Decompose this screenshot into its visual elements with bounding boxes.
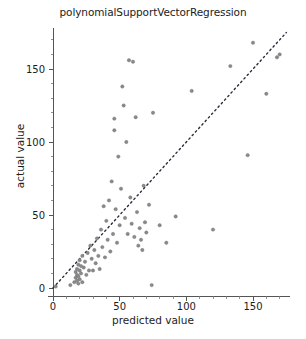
chart-figure: polynomialSupportVectorRegression 050100…: [0, 0, 306, 339]
data-point: [54, 285, 57, 288]
data-point: [99, 228, 102, 231]
data-point: [79, 272, 82, 275]
data-point: [91, 269, 94, 272]
identity-line: [53, 33, 286, 289]
data-point: [82, 266, 85, 269]
x-tick-label: 0: [50, 301, 56, 312]
data-point: [158, 224, 161, 227]
data-point: [126, 232, 129, 235]
data-point: [107, 199, 110, 202]
data-point: [69, 283, 72, 286]
data-point: [143, 221, 146, 224]
data-point: [94, 261, 97, 264]
data-point: [139, 238, 142, 241]
y-tick-label: 100: [26, 137, 45, 148]
data-point: [110, 180, 113, 183]
data-point: [246, 153, 249, 156]
data-point: [121, 85, 124, 88]
data-point: [78, 259, 81, 262]
data-point: [78, 278, 81, 281]
data-point: [130, 222, 133, 225]
y-tick-label: 150: [26, 64, 45, 75]
data-point: [134, 115, 137, 118]
data-point: [106, 238, 109, 241]
data-point: [142, 184, 145, 187]
data-point: [122, 104, 125, 107]
data-point: [115, 241, 118, 244]
data-point: [81, 254, 84, 257]
data-point: [93, 248, 96, 251]
data-point: [190, 89, 193, 92]
data-point: [229, 64, 232, 67]
data-points: [54, 41, 281, 288]
data-point: [105, 219, 108, 222]
data-point: [147, 203, 150, 206]
data-point: [85, 273, 88, 276]
data-point: [118, 224, 121, 227]
data-point: [131, 60, 134, 63]
data-point: [174, 215, 177, 218]
scatter-plot-canvas: 050100150050100150: [0, 0, 306, 339]
x-axis-label: predicted value: [0, 314, 306, 326]
data-point: [251, 41, 254, 44]
data-point: [113, 129, 116, 132]
identity-reference-line: [53, 33, 286, 289]
y-tick-label: 0: [39, 283, 45, 294]
data-point: [113, 117, 116, 120]
data-point: [83, 260, 86, 263]
data-point: [90, 257, 93, 260]
x-tick-label: 100: [177, 301, 196, 312]
y-tick-label: 50: [32, 210, 45, 221]
data-point: [111, 232, 114, 235]
data-point: [89, 244, 92, 247]
data-point: [109, 250, 112, 253]
data-point: [117, 155, 120, 158]
data-point: [103, 256, 106, 259]
x-axis: [48, 296, 291, 301]
data-point: [102, 205, 105, 208]
data-point: [278, 53, 281, 56]
data-point: [137, 244, 140, 247]
data-point: [129, 196, 132, 199]
y-axis: [49, 28, 54, 297]
data-point: [123, 216, 126, 219]
data-point: [81, 280, 84, 283]
data-point: [98, 267, 101, 270]
data-point: [101, 245, 104, 248]
x-tick-label: 150: [243, 301, 262, 312]
data-point: [145, 231, 148, 234]
data-point: [86, 251, 89, 254]
data-point: [135, 210, 138, 213]
data-point: [150, 283, 153, 286]
data-point: [127, 59, 130, 62]
data-point: [114, 207, 117, 210]
data-point: [165, 241, 168, 244]
data-point: [87, 269, 90, 272]
data-point: [141, 248, 144, 251]
data-point: [265, 92, 268, 95]
data-point: [138, 226, 141, 229]
data-point: [133, 235, 136, 238]
x-tick-label: 50: [113, 301, 126, 312]
data-point: [95, 237, 98, 240]
data-point: [97, 254, 100, 257]
data-point: [275, 56, 278, 59]
y-axis-label: actual value: [14, 106, 26, 206]
data-point: [77, 282, 80, 285]
data-point: [125, 140, 128, 143]
data-point: [119, 187, 122, 190]
data-point: [211, 228, 214, 231]
data-point: [151, 111, 154, 114]
